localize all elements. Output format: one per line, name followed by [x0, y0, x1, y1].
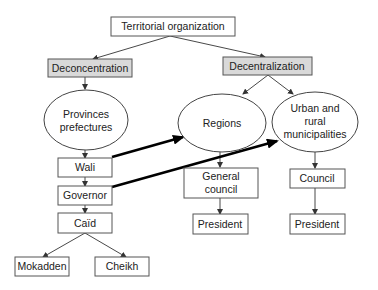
svg-text:Territorial organization: Territorial organization [121, 20, 224, 32]
node-general-council: General council [184, 168, 258, 198]
node-mokadden: Mokadden [15, 257, 69, 276]
svg-text:Decentralization: Decentralization [229, 60, 304, 72]
node-caid: Caïd [58, 213, 112, 233]
svg-text:Governor: Governor [63, 189, 107, 201]
svg-text:President: President [198, 218, 242, 230]
node-municipalities-president: President [290, 214, 345, 234]
svg-text:Caïd: Caïd [74, 217, 96, 229]
node-governor: Governor [58, 186, 112, 205]
svg-text:council: council [205, 183, 238, 195]
svg-text:Provinces: Provinces [63, 108, 109, 120]
node-territorial-organization: Territorial organization [111, 17, 235, 36]
node-urban-rural-municipalities: Urban and rural municipalities [272, 92, 358, 152]
node-regions: Regions [178, 94, 266, 152]
svg-text:Deconcentration: Deconcentration [52, 62, 129, 74]
svg-text:Mokadden: Mokadden [17, 260, 66, 272]
node-provinces-prefectures: Provinces prefectures [44, 90, 128, 150]
wali-to-regions-arrow [112, 137, 183, 157]
svg-text:rural: rural [304, 115, 325, 127]
svg-text:prefectures: prefectures [60, 121, 113, 133]
node-wali: Wali [58, 158, 112, 177]
territorial-organization-diagram: Territorial organization Deconcentration… [0, 0, 378, 290]
node-regions-president: President [193, 214, 248, 234]
svg-text:Regions: Regions [203, 117, 242, 129]
svg-text:Cheikh: Cheikh [106, 260, 139, 272]
svg-text:Council: Council [299, 172, 334, 184]
svg-text:Wali: Wali [75, 161, 95, 173]
node-council: Council [290, 169, 345, 188]
svg-text:General: General [202, 170, 239, 182]
svg-text:municipalities: municipalities [283, 128, 346, 140]
node-cheikh: Cheikh [95, 257, 149, 276]
svg-text:Urban and: Urban and [290, 102, 339, 114]
svg-text:President: President [295, 218, 339, 230]
node-decentralization: Decentralization [223, 57, 312, 75]
node-deconcentration: Deconcentration [48, 59, 132, 77]
